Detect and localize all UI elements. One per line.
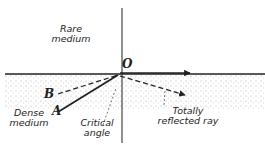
reflected-ray-label: Totally reflected ray <box>150 106 226 126</box>
critical-angle-label: Critical angle <box>72 118 122 138</box>
reflected-line2: reflected ray <box>150 116 226 126</box>
dense-medium-line2: medium <box>4 118 54 128</box>
rare-medium-line2: medium <box>46 34 96 44</box>
critical-line2: angle <box>72 128 122 138</box>
total-internal-reflection-diagram: Rare medium O B A Dense medium Critical … <box>0 0 265 145</box>
ray-b-label: B <box>44 89 54 99</box>
rare-medium-label: Rare medium <box>46 24 96 44</box>
point-o-label: O <box>122 59 132 69</box>
dense-medium-label: Dense medium <box>4 108 54 128</box>
